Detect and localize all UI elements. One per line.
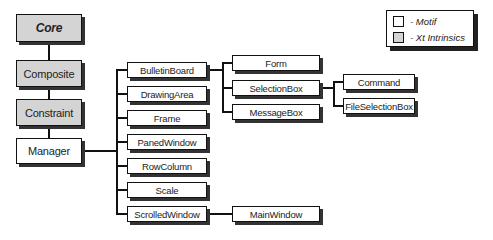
branch-selectionbox [222, 87, 232, 89]
branch-scale [116, 189, 127, 191]
node-selectionbox: SelectionBox [232, 80, 320, 96]
node-scrolledwindow: ScrolledWindow [127, 206, 207, 222]
motif-swatch-icon [393, 16, 404, 27]
node-label: DrawingArea [141, 89, 194, 100]
node-label: SelectionBox [249, 83, 302, 94]
node-label: Form [265, 58, 286, 69]
connector-selectionbox-trunk [320, 87, 334, 89]
selectionbox-children-trunk [333, 81, 335, 107]
node-label: BulletinBoard [140, 65, 194, 76]
legend-item-xt: - Xt Intrinsics [393, 32, 465, 43]
node-label: MessageBox [250, 107, 303, 118]
connector-constraint-manager [48, 126, 50, 138]
legend-item-motif: - Motif [393, 16, 436, 27]
node-label: Constraint [25, 107, 73, 119]
node-label: Frame [154, 113, 180, 124]
node-drawingarea: DrawingArea [127, 86, 207, 102]
node-panedwindow: PanedWindow [127, 134, 207, 150]
connector-composite-constraint [48, 87, 50, 99]
node-label: Scale [156, 185, 179, 196]
node-label: Core [36, 21, 63, 35]
branch-command [333, 81, 343, 83]
legend: - Motif - Xt Intrinsics [386, 10, 474, 47]
node-label: FileSelectionBox [345, 101, 413, 112]
branch-form [222, 62, 232, 64]
node-label: ScrolledWindow [134, 209, 199, 220]
branch-rowcolumn [116, 165, 127, 167]
node-label: Composite [24, 68, 75, 80]
connector-bulletinboard-trunk [207, 69, 223, 71]
xt-swatch-icon [393, 32, 404, 43]
node-label: RowColumn [142, 161, 192, 172]
connector-manager-trunk [82, 150, 117, 152]
legend-label: - Motif [410, 16, 436, 27]
branch-fileselectionbox [333, 105, 343, 107]
node-label: PanedWindow [137, 137, 196, 148]
node-constraint: Constraint [16, 99, 82, 126]
node-frame: Frame [127, 110, 207, 126]
node-core: Core [16, 14, 82, 42]
branch-frame [116, 117, 127, 119]
node-mainwindow: MainWindow [232, 206, 320, 222]
node-fileselectionbox: FileSelectionBox [343, 98, 415, 114]
node-label: Manager [28, 145, 70, 157]
legend-label: - Xt Intrinsics [410, 32, 465, 43]
node-composite: Composite [16, 60, 82, 87]
node-messagebox: MessageBox [232, 104, 320, 120]
connector-scrolledwindow-mainwindow [207, 213, 232, 215]
branch-messagebox [222, 111, 232, 113]
node-command: Command [343, 74, 415, 90]
node-manager: Manager [16, 138, 82, 164]
node-form: Form [232, 55, 320, 71]
connector-core-composite [48, 42, 50, 60]
node-label: Command [358, 77, 400, 88]
node-rowcolumn: RowColumn [127, 158, 207, 174]
branch-bulletinboard [116, 69, 127, 71]
branch-scrolledwindow [116, 213, 127, 215]
node-scale: Scale [127, 182, 207, 198]
branch-drawingarea [116, 93, 127, 95]
node-bulletinboard: BulletinBoard [127, 62, 207, 78]
node-label: MainWindow [250, 209, 302, 220]
branch-panedwindow [116, 141, 127, 143]
